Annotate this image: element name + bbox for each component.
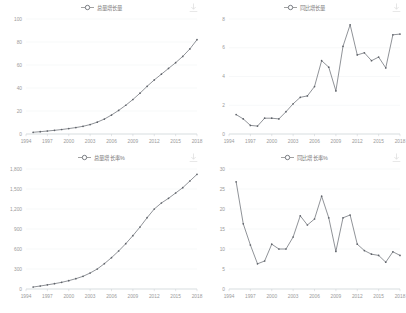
svg-text:2000: 2000: [266, 294, 277, 299]
plot-area-total-growth-pct: 03006009001,2001,5001,800199419972000200…: [0, 163, 203, 305]
svg-text:2003: 2003: [85, 139, 96, 144]
svg-text:2: 2: [222, 103, 225, 108]
svg-text:1,500: 1,500: [10, 187, 22, 192]
svg-text:2018: 2018: [192, 139, 203, 144]
chart-grid: 总量增长量 0204060801001994199720002003200620…: [0, 0, 406, 313]
svg-text:60: 60: [17, 63, 23, 68]
svg-text:2018: 2018: [395, 139, 406, 144]
svg-text:1,200: 1,200: [10, 207, 22, 212]
circle-line-marker-icon: [281, 153, 294, 162]
svg-text:20: 20: [17, 109, 23, 114]
svg-text:2009: 2009: [128, 294, 139, 299]
legend-label: 总量增长率%: [94, 154, 125, 162]
svg-text:30: 30: [220, 167, 226, 172]
circle-line-marker-icon: [78, 153, 91, 162]
svg-text:1994: 1994: [224, 139, 235, 144]
svg-text:1,800: 1,800: [10, 167, 22, 172]
chart-panel-total-growth-pct: 总量增长率% 03006009001,2001,5001,80019941997…: [0, 150, 203, 305]
svg-total-growth-pct: 03006009001,2001,5001,800199419972000200…: [0, 163, 203, 305]
chart-panel-yoy-volume: 同比增长量 0246819941997200020032006200920122…: [203, 0, 406, 150]
svg-text:10: 10: [220, 247, 226, 252]
svg-text:1997: 1997: [245, 139, 256, 144]
legend-yoy-volume[interactable]: 同比增长量: [203, 2, 406, 13]
download-icon[interactable]: [189, 153, 198, 163]
svg-text:300: 300: [14, 267, 22, 272]
legend-label: 总量增长量: [97, 4, 123, 12]
svg-text:2000: 2000: [63, 294, 74, 299]
svg-total-volume: 0204060801001994199720002003200620092012…: [0, 13, 203, 150]
download-icon[interactable]: [189, 3, 198, 13]
svg-text:2006: 2006: [309, 294, 320, 299]
svg-text:2018: 2018: [395, 294, 406, 299]
svg-text:600: 600: [14, 247, 22, 252]
svg-text:15: 15: [220, 227, 226, 232]
chart-panel-yoy-growth-pct: 同比增长率% 051015202530199419972000200320062…: [203, 150, 406, 305]
svg-text:2003: 2003: [85, 294, 96, 299]
svg-text:2006: 2006: [106, 294, 117, 299]
legend-label: 同比增长量: [300, 4, 326, 12]
circle-line-marker-icon: [81, 3, 94, 12]
svg-text:1997: 1997: [42, 294, 53, 299]
plot-area-yoy-growth-pct: 0510152025301994199720002003200620092012…: [203, 163, 406, 305]
svg-text:25: 25: [220, 187, 226, 192]
svg-text:2006: 2006: [309, 139, 320, 144]
svg-text:4: 4: [222, 74, 225, 79]
svg-text:0: 0: [19, 287, 22, 292]
plot-area-yoy-volume: 0246819941997200020032006200920122015201…: [203, 13, 406, 150]
svg-text:0: 0: [222, 132, 225, 137]
svg-text:2003: 2003: [288, 294, 299, 299]
legend-yoy-growth-pct[interactable]: 同比增长率%: [203, 152, 406, 163]
svg-text:8: 8: [222, 17, 225, 22]
svg-text:2015: 2015: [373, 139, 384, 144]
svg-text:900: 900: [14, 227, 22, 232]
svg-text:20: 20: [220, 207, 226, 212]
legend-total-volume[interactable]: 总量增长量: [0, 2, 203, 13]
circle-line-marker-icon: [284, 3, 297, 12]
svg-text:2012: 2012: [149, 294, 160, 299]
svg-text:1994: 1994: [21, 139, 32, 144]
svg-text:2018: 2018: [192, 294, 203, 299]
svg-text:1997: 1997: [245, 294, 256, 299]
svg-text:1994: 1994: [224, 294, 235, 299]
svg-text:2015: 2015: [170, 294, 181, 299]
svg-text:6: 6: [222, 45, 225, 50]
svg-text:2000: 2000: [63, 139, 74, 144]
svg-text:80: 80: [17, 40, 23, 45]
svg-text:2003: 2003: [288, 139, 299, 144]
svg-text:2015: 2015: [170, 139, 181, 144]
svg-text:2015: 2015: [373, 294, 384, 299]
svg-text:2009: 2009: [331, 294, 342, 299]
svg-text:2012: 2012: [352, 139, 363, 144]
download-icon[interactable]: [392, 3, 401, 13]
svg-text:2009: 2009: [331, 139, 342, 144]
svg-text:1997: 1997: [42, 139, 53, 144]
download-icon[interactable]: [392, 153, 401, 163]
legend-total-growth-pct[interactable]: 总量增长率%: [0, 152, 203, 163]
svg-text:2009: 2009: [128, 139, 139, 144]
svg-text:2006: 2006: [106, 139, 117, 144]
legend-label: 同比增长率%: [297, 154, 328, 162]
svg-text:0: 0: [222, 287, 225, 292]
svg-text:2012: 2012: [149, 139, 160, 144]
svg-text:2000: 2000: [266, 139, 277, 144]
chart-panel-total-volume: 总量增长量 0204060801001994199720002003200620…: [0, 0, 203, 150]
svg-text:0: 0: [19, 132, 22, 137]
svg-text:40: 40: [17, 86, 23, 91]
svg-text:5: 5: [222, 267, 225, 272]
svg-text:2012: 2012: [352, 294, 363, 299]
svg-text:100: 100: [14, 17, 22, 22]
svg-yoy-growth-pct: 0510152025301994199720002003200620092012…: [203, 163, 406, 305]
plot-area-total-volume: 0204060801001994199720002003200620092012…: [0, 13, 203, 150]
svg-yoy-volume: 0246819941997200020032006200920122015201…: [203, 13, 406, 150]
svg-text:1994: 1994: [21, 294, 32, 299]
